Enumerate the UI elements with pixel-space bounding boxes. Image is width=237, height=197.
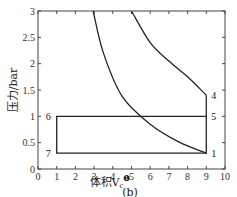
x-tick-label: 9 [204,171,209,182]
y-tick-label: 3 [30,6,35,17]
x-tick-label: 0 [36,171,41,182]
state-point-label: 4 [211,90,216,101]
x-tick-label: 10 [220,171,230,182]
x-tick-label: 1 [54,171,59,182]
x-tick-label: 2 [73,171,78,182]
state-point-label: 1 [211,148,216,159]
plot-frame [38,11,225,169]
curves: 14567 [46,11,217,159]
x-tick-label: 6 [148,171,153,182]
y-tick-label: 2.5 [23,32,36,43]
x-tick-label: 7 [166,171,171,182]
figure-caption: (b) [122,186,138,197]
state-point-label: 7 [46,148,51,159]
y-tick-label: 0 [30,164,35,175]
y-tick-label: 1.5 [23,85,36,96]
isentrope-lower-curve [93,11,206,153]
isentrope-upper-curve [132,11,207,95]
y-tick-label: 0.5 [23,137,36,148]
x-tick-label: 8 [185,171,190,182]
state-point-label: 6 [46,111,51,122]
pv-diagram: 01234567891000.511.522.53 14567 压力/bar 体… [0,0,237,197]
y-tick-label: 2 [30,58,35,69]
state-point-label: 5 [211,111,216,122]
y-tick-label: 1 [30,111,35,122]
y-axis-label: 压力/bar [7,67,20,112]
axis-ticks: 01234567891000.511.522.53 [23,6,231,183]
